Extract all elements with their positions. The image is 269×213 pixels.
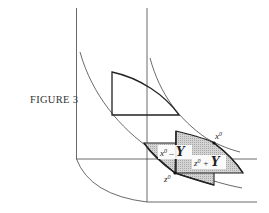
z0-plus-Y-label: z0 + Y (193, 155, 221, 169)
x0-point (212, 141, 215, 144)
x0-label: x0 (214, 131, 222, 141)
diagram-canvas: x0 z0 x0 – Y z0 + Y (0, 0, 269, 213)
upper-set-polygon (112, 72, 179, 115)
z0-point (173, 171, 176, 174)
lower-left-arc (77, 159, 148, 202)
x0-minus-Y-label: x0 – Y (159, 145, 186, 159)
z0-label: z0 (163, 174, 171, 184)
